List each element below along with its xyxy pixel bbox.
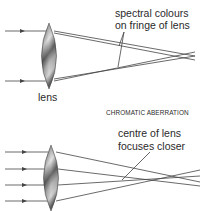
top-annotation-line1: spectral colours [115, 8, 189, 19]
bottom-lens-diagram [5, 152, 200, 201]
top-annotation-line2: on fringe of lens [115, 20, 190, 31]
bottom-annotation-line2: focuses closer [118, 141, 185, 152]
top-arrow-icons [20, 29, 25, 83]
top-lens-diagram [5, 31, 195, 81]
bottom-arrow-icons [22, 150, 27, 203]
bottom-annotation-line1: centre of lens [118, 128, 181, 139]
lens-label: lens [38, 92, 57, 103]
chromatic-aberration-diagram [0, 0, 213, 211]
diagram-caption: CHROMATIC ABERRATION [106, 110, 189, 116]
